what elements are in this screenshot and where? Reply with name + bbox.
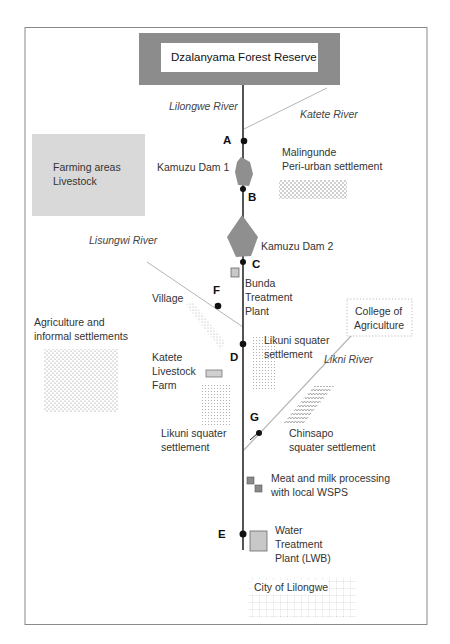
malingunde-label: Malingunde bbox=[282, 146, 336, 159]
point-b bbox=[240, 186, 246, 192]
forest-reserve-title: Dzalanyama Forest Reserve bbox=[171, 51, 317, 64]
processing-marker-2 bbox=[255, 485, 262, 492]
point-d-label: D bbox=[230, 351, 238, 364]
water-treatment-plant-marker bbox=[250, 531, 267, 551]
agriculture-label-2: informal settlements bbox=[34, 330, 128, 343]
katete-farm-label-2: Livestock bbox=[152, 365, 196, 378]
katete-farm-label-1: Katete bbox=[152, 351, 182, 364]
likuni-left-pattern bbox=[200, 383, 232, 425]
katete-river-label: Katete River bbox=[300, 108, 358, 121]
point-b-label: B bbox=[248, 191, 256, 204]
point-f-label: F bbox=[213, 284, 220, 297]
water-treatment-label-2: Treatment bbox=[275, 538, 322, 551]
point-g bbox=[256, 430, 262, 436]
lilongwe-river-label: Lilongwe River bbox=[169, 100, 238, 113]
peri-urban-label: Peri-urban settlement bbox=[282, 160, 382, 173]
water-treatment-label-1: Water bbox=[275, 524, 303, 537]
processing-marker-1 bbox=[247, 477, 254, 484]
likuni-right-label-2: settlement bbox=[264, 348, 312, 361]
point-a bbox=[241, 138, 248, 145]
bunda-label-3: Plant bbox=[245, 305, 269, 318]
point-e bbox=[240, 531, 247, 538]
bunda-treatment-plant-marker bbox=[231, 268, 239, 277]
lisungwi-river-label: Lisungwi River bbox=[89, 234, 157, 247]
bunda-label-2: Treatment bbox=[245, 291, 292, 304]
likuni-right-label-1: Likuni squater bbox=[264, 334, 329, 347]
likuni-left-label-2: settlement bbox=[161, 441, 209, 454]
point-d bbox=[240, 341, 247, 348]
point-c bbox=[240, 259, 246, 265]
village-label: Village bbox=[152, 292, 183, 305]
kamuzu-dam-1-label: Kamuzu Dam 1 bbox=[157, 161, 229, 174]
water-treatment-label-3: Plant (LWB) bbox=[275, 552, 331, 565]
chinsapo-label-2: squater settlement bbox=[289, 441, 375, 454]
meat-processing-label-1: Meat and milk processing bbox=[271, 472, 390, 485]
bunda-label-1: Bunda bbox=[245, 277, 275, 290]
kamuzu-dam-2-label: Kamuzu Dam 2 bbox=[261, 240, 333, 253]
katete-livestock-farm-marker bbox=[206, 370, 222, 377]
likni-river-label: Likni River bbox=[324, 353, 373, 366]
point-f bbox=[215, 303, 222, 310]
point-g-label: G bbox=[250, 411, 259, 424]
chinsapo-label-1: Chinsapo bbox=[289, 427, 333, 440]
point-e-label: E bbox=[218, 528, 226, 541]
agriculture-pattern bbox=[44, 349, 118, 412]
likuni-left-label-1: Likuni squater bbox=[161, 427, 226, 440]
city-of-lilongwe-label: City of Lilongwe bbox=[254, 581, 328, 594]
college-label-1: College of bbox=[355, 305, 402, 318]
malingunde-pattern bbox=[279, 180, 347, 199]
agriculture-label-1: Agriculture and bbox=[34, 316, 105, 329]
college-label-2: Agriculture bbox=[354, 319, 404, 332]
point-a-label: A bbox=[223, 134, 231, 147]
livestock-label: Livestock bbox=[53, 175, 97, 188]
point-c-label: C bbox=[252, 258, 260, 271]
meat-processing-label-2: with local WSPS bbox=[271, 486, 348, 499]
farming-areas-label: Farming areas bbox=[53, 161, 121, 174]
katete-farm-label-3: Farm bbox=[152, 379, 177, 392]
